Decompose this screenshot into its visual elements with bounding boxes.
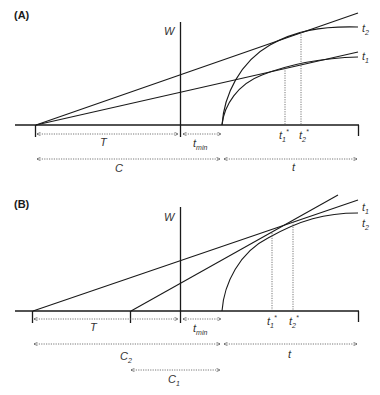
gain-curve [222,213,358,311]
optimum-label-t1: t1* [279,128,289,143]
gain-curve-t2 [222,27,358,125]
panel-a: (A) W t2 t1 t1* t2* T tmin C t [14,9,369,174]
w-axis-label: W [164,25,176,37]
label-tmin: tmin [193,322,207,336]
label-tmin: tmin [193,137,207,151]
label-t: t [292,161,296,173]
label-T: T [90,321,98,333]
panel-b-label: (B) [14,198,30,210]
w-axis-label: W [164,211,176,223]
tangent-line-t2 [33,200,358,311]
tangent-line-t1 [36,52,358,125]
optimum-label-t1: t1* [267,314,277,329]
label-t: t [288,348,292,360]
optimum-label-t2: t2* [289,314,299,329]
panel-a-label: (A) [14,9,30,21]
optimum-label-t2: t2* [299,128,309,143]
panel-b: (B) W t1 t2 t1* t2* T tmin C2 t C1 [14,195,369,387]
label-C2: C2 [120,350,132,364]
label-C: C [115,162,123,174]
marginal-value-diagram: (A) W t2 t1 t1* t2* T tmin C t (B) [0,0,380,395]
curve-label-t1: t1 [362,50,369,64]
label-C1: C1 [168,373,180,387]
label-T: T [100,136,108,148]
curve-label-t2: t2 [362,22,369,36]
tangent-line-t1 [131,195,338,311]
curve-label-t2: t2 [362,217,369,231]
curve-label-t1: t1 [362,201,369,215]
